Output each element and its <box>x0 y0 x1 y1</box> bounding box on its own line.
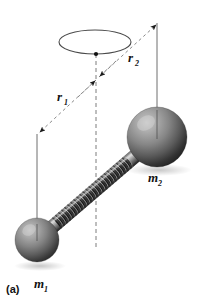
label-m1: m 1 <box>34 276 48 294</box>
orbit-path-ellipse <box>59 30 131 54</box>
rod-coil-texture <box>52 155 134 228</box>
label-r1: r 1 <box>57 89 68 107</box>
panel-label: (a) <box>6 283 20 295</box>
label-m1-base: m <box>34 276 44 291</box>
label-r1-base: r <box>57 89 63 104</box>
label-r1-subscript: 1 <box>64 98 68 107</box>
label-r2-base: r <box>128 50 134 65</box>
label-r2: r 2 <box>128 50 139 68</box>
label-r2-subscript: 2 <box>134 59 139 68</box>
physics-figure-two-body-rotation: r 1 r 2 m 1 m 2 (a) <box>0 0 201 301</box>
center-of-mass-dot <box>94 52 98 56</box>
label-m2-base: m <box>148 170 158 185</box>
shadow-under-mass-1 <box>14 261 66 271</box>
label-m1-subscript: 1 <box>44 285 48 294</box>
label-m2-subscript: 2 <box>157 179 162 188</box>
diagram-canvas: r 1 r 2 m 1 m 2 (a) <box>0 0 201 301</box>
